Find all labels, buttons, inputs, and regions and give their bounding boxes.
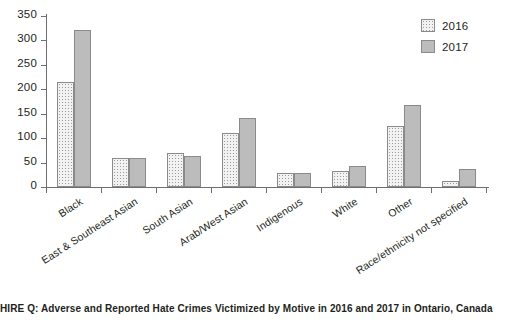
bar-2016 xyxy=(387,126,404,187)
x-axis-label-text: Indigenous xyxy=(254,195,304,234)
x-axis-label-text: East & Southeast Asian xyxy=(39,195,139,266)
legend: 2016 2017 xyxy=(421,19,468,61)
bar-2016 xyxy=(442,181,459,187)
bar-chart: 050100150200250300350 BlackEast & Southe… xyxy=(0,0,520,321)
x-axis-label-text: Other xyxy=(385,195,414,220)
bar-group xyxy=(46,16,101,187)
legend-item-2017: 2017 xyxy=(421,40,468,53)
legend-label-2016: 2016 xyxy=(442,20,468,32)
y-axis-tick-label: 50 xyxy=(24,155,37,167)
x-axis-label-text: White xyxy=(330,195,359,220)
y-axis-tick-label: 250 xyxy=(17,57,37,69)
bar-2017 xyxy=(239,118,256,187)
bar-2016 xyxy=(57,82,74,187)
bar-2017 xyxy=(349,166,366,187)
bar-2017 xyxy=(74,30,91,187)
y-axis-tick-label: 100 xyxy=(17,130,37,142)
x-axis-tick-mark xyxy=(46,187,47,193)
y-axis-tick-label: 200 xyxy=(17,81,37,93)
bar-2017 xyxy=(404,105,421,187)
figure-caption: HIRE Q: Adverse and Reported Hate Crimes… xyxy=(0,303,520,314)
y-axis-tick-label: 150 xyxy=(17,106,37,118)
figure-caption-text: HIRE Q: Adverse and Reported Hate Crimes… xyxy=(0,303,520,314)
bar-2017 xyxy=(129,158,146,187)
bar-group xyxy=(321,16,376,187)
plot-area xyxy=(46,16,486,187)
bar-group xyxy=(101,16,156,187)
legend-item-2016: 2016 xyxy=(421,19,468,32)
x-axis-label-text: South Asian xyxy=(140,195,194,236)
y-axis-tick-label: 350 xyxy=(17,8,37,20)
y-axis-tick-label: 0 xyxy=(30,179,37,191)
y-axis-tick-label: 300 xyxy=(17,32,37,44)
legend-swatch-2016-icon xyxy=(421,19,435,32)
x-axis-label-text: Black xyxy=(56,195,84,219)
legend-swatch-2017-icon xyxy=(421,40,435,53)
bar-2017 xyxy=(294,173,311,187)
bar-2017 xyxy=(459,169,476,187)
bar-2016 xyxy=(112,158,129,187)
legend-label-2017: 2017 xyxy=(442,41,468,53)
bar-group xyxy=(211,16,266,187)
